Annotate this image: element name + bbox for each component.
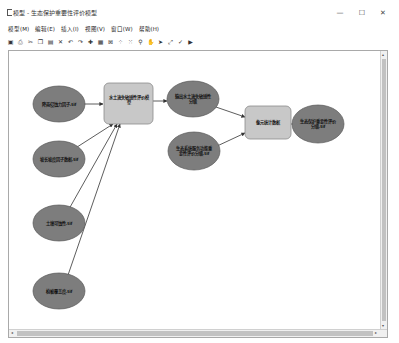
menu-bar: 模型(M) 编辑(E) 插入(I) 视图(V) 窗口(W) 帮助(H) [8,24,159,34]
input-node-3-label[interactable]: 土壤可蚀性.tif [37,214,81,232]
minimize-button[interactable]: — [333,7,347,19]
maximize-button[interactable]: ☐ [355,7,369,19]
intermediate-node-2-label[interactable]: 生态系统服务功能重要性评价分级.tif [175,140,213,162]
pan-icon[interactable]: ✋ [147,38,154,45]
zoom-icon[interactable]: ⚲ [137,38,144,45]
menu-view[interactable]: 视图(V) [85,24,105,34]
undo-icon[interactable]: ↶ [67,38,74,45]
cut-icon[interactable]: ✂ [27,38,34,45]
auto-layout-icon[interactable]: ⊠ [107,38,114,45]
output-node-1-label[interactable]: 生态保护重要性评价分级.tif [299,113,337,135]
copy-icon[interactable]: ❐ [37,38,44,45]
window-title: 模型 - 生态保护重要性评价模型 [13,8,97,17]
delete-icon[interactable]: ✕ [57,38,64,45]
scroll-left-arrow-icon[interactable]: ◂ [11,330,13,336]
validate-icon[interactable]: ✓ [177,38,184,45]
connect-icon[interactable]: ⤢ [167,38,174,45]
model-canvas[interactable]: 降雨侵蚀力因子.tif 坡长坡度因子数据.tif 土壤可蚀性.tif 植被覆盖度… [8,50,388,338]
paste-icon[interactable]: ▤ [47,38,54,45]
app-icon [7,9,12,16]
save-icon[interactable]: ▣ [7,38,14,45]
vertical-scrollbar[interactable]: ▴ ▾ [380,51,387,331]
input-node-4-label[interactable]: 植被覆盖度.tif [39,282,79,300]
scroll-right-arrow-icon[interactable]: ▸ [375,330,377,336]
menu-insert[interactable]: 插入(I) [61,24,79,34]
process-node-1-label[interactable]: 水土流失敏感性评价模型 [107,89,150,111]
menu-help[interactable]: 帮助(H) [139,24,159,34]
print-icon[interactable]: ⎙ [17,38,24,45]
menu-edit[interactable]: 编辑(E) [35,24,55,34]
add-data-icon[interactable]: ✚ [87,38,94,45]
intermediate-node-1-label[interactable]: 输出水土流失敏感性分级 [174,90,212,108]
connector-d2-p2 [215,133,245,147]
model-builder-window: 模型 - 生态保护重要性评价模型 — ☐ ✕ 模型(M) 编辑(E) 插入(I)… [0,0,399,343]
close-button[interactable]: ✕ [376,7,390,19]
input-node-1-label[interactable]: 降雨侵蚀力因子.tif [39,95,79,113]
horizontal-scrollbar[interactable]: ◂ ▸ [9,329,388,337]
menu-window[interactable]: 窗口(W) [111,24,133,34]
redo-icon[interactable]: ↷ [77,38,84,45]
vertical-scroll-thumb[interactable] [382,59,386,321]
title-bar: 模型 - 生态保护重要性评价模型 — ☐ ✕ [0,6,399,20]
run-icon[interactable]: ▶ [187,38,194,45]
select-icon[interactable]: ➤ [157,38,164,45]
input-node-2-label[interactable]: 坡长坡度因子数据.tif [39,150,79,168]
menu-model[interactable]: 模型(M) [8,24,29,34]
connector-d1-p2 [213,106,245,117]
model-properties-icon[interactable]: ▦ [97,38,104,45]
process-node-2-label[interactable]: 像元统计数据 [248,113,288,131]
connector-in2-p1 [74,124,113,149]
horizontal-scroll-thumb[interactable] [17,331,373,336]
scroll-up-arrow-icon[interactable]: ▴ [382,52,384,58]
full-extent-icon[interactable]: ⁘ [117,38,124,45]
fixed-zoom-icon[interactable]: ⁙ [127,38,134,45]
toolbar: ▣ ⎙ ✂ ❐ ▤ ✕ ↶ ↷ ✚ ▦ ⊠ ⁘ ⁙ ⚲ ✋ ➤ ⤢ ✓ ▶ [7,36,194,46]
